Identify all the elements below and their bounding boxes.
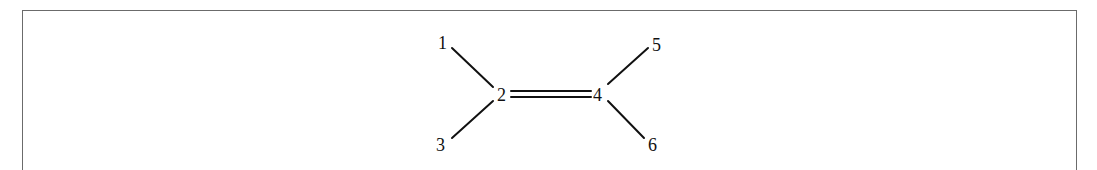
molecule-bonds [0,0,1097,170]
atom-label-6: 6 [648,136,657,154]
bond-4-6 [608,101,644,138]
atom-label-3: 3 [436,136,445,154]
bond-3-2 [452,101,493,138]
atom-label-5: 5 [652,36,661,54]
atom-label-1: 1 [438,34,447,52]
bond-4-5 [608,48,648,84]
atom-label-2: 2 [497,86,506,104]
atom-label-4: 4 [593,86,602,104]
bond-1-2 [452,48,493,87]
